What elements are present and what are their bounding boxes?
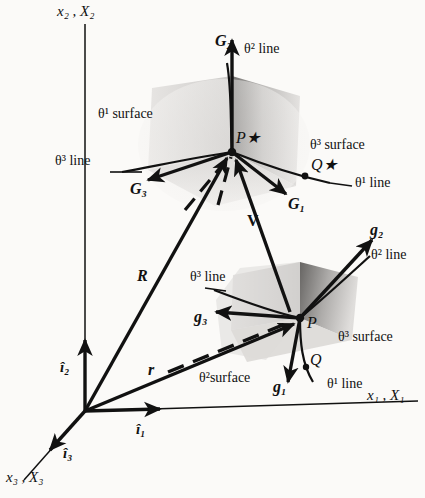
- G1-vector-label: G₁: [288, 196, 305, 212]
- theta1-line-lower-label: θ¹ line: [327, 377, 362, 391]
- theta3-line-upper-label: θ³ line: [55, 154, 90, 168]
- x3-X3-axis-label: x₃ , X₃: [6, 470, 44, 485]
- diagram-vector-layer: [0, 0, 425, 498]
- x2-X2-axis-label: x₂ , X₂: [57, 4, 95, 19]
- r-vector-arrow: [85, 324, 294, 411]
- R-vector-label: R: [137, 268, 148, 284]
- figure-canvas: x₂ , X₂ x₁ , X₁ x₃ , X₃ î₂ î₁ î₃ R r …: [0, 0, 425, 498]
- theta2-surface-lower-label: θ²surface: [199, 371, 250, 385]
- theta1-surface-upper-label: θ¹ surface: [98, 107, 153, 121]
- theta3-surface-upper-label: θ³ surface: [310, 138, 365, 152]
- g1-vector-label: g₁: [273, 379, 287, 395]
- point-Q-dot: [303, 364, 309, 370]
- theta3-line-lower-label: θ³ line: [190, 270, 225, 284]
- i2-hat-label: î₂: [60, 360, 69, 375]
- point-P-star-label: P★: [236, 130, 260, 146]
- theta1-line-upper-label: θ¹ line: [355, 176, 390, 190]
- point-Q-star-label: Q★: [311, 157, 337, 173]
- x1-X1-axis-label: x₁ , X₁: [367, 388, 405, 403]
- point-Q-star-dot: [302, 173, 309, 180]
- g2-vector-label: g₂: [370, 222, 384, 238]
- r-vector-label: r: [148, 362, 154, 378]
- G3-vector-label: G₃: [130, 181, 147, 197]
- point-P-label: P: [307, 315, 317, 331]
- theta2-line-upper-label: θ² line: [244, 42, 279, 56]
- i1-hat-arrow: [85, 409, 160, 411]
- g3-vector-label: g₃: [194, 309, 208, 325]
- theta1-line-upper-leader: [330, 183, 352, 186]
- theta2-line-lower-label: θ² line: [371, 248, 406, 262]
- theta3-surface-lower-label: θ³ surface: [338, 330, 393, 344]
- V-vector-label: V: [247, 213, 259, 229]
- i1-hat-label: î₁: [136, 422, 145, 437]
- point-Q-label: Q: [310, 352, 322, 368]
- G2-vector-label: G₂: [215, 33, 232, 49]
- point-P-star-dot: [228, 148, 236, 156]
- point-P-dot: [296, 314, 304, 322]
- i3-hat-label: î₃: [63, 446, 72, 461]
